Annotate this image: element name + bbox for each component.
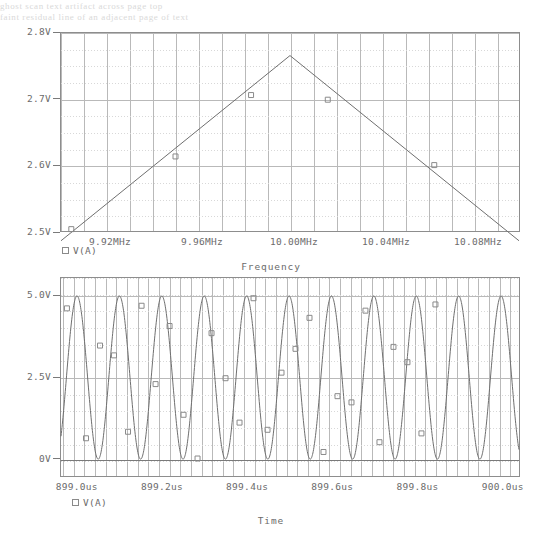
y-tick-label: 2.7V [0, 93, 60, 104]
data-point-marker[interactable] [249, 93, 254, 98]
data-point-marker[interactable] [153, 382, 158, 387]
x-tick-label: 10.00MHz [264, 236, 324, 247]
y-tick-mark [53, 458, 60, 459]
x-tick-label: 10.04MHz [356, 236, 416, 247]
legend-frequency[interactable]: V(A) [62, 245, 97, 256]
y-tick-mark [53, 32, 60, 33]
y-tick-mark [53, 98, 60, 99]
data-point-marker[interactable] [335, 394, 340, 399]
y-tick-label: 2.5V [0, 226, 60, 237]
data-point-marker[interactable] [112, 353, 117, 358]
data-point-marker[interactable] [237, 420, 242, 425]
data-point-marker[interactable] [84, 436, 89, 441]
y-tick-label: 0V [0, 453, 60, 464]
y-tick-text: 2.7V [27, 93, 51, 104]
y-tick-mark [53, 232, 60, 233]
data-point-marker[interactable] [419, 431, 424, 436]
data-point-marker[interactable] [363, 308, 368, 313]
data-point-marker[interactable] [98, 343, 103, 348]
y-tick-text: 5.0V [27, 289, 51, 300]
chart-time-domain: 0V2.5V5.0V 899.0us899.2us899.4us899.6us8… [0, 275, 542, 539]
data-point-marker[interactable] [223, 376, 228, 381]
x-tick-label: 899.0us [47, 481, 107, 492]
plot-frame-frequency [60, 32, 520, 232]
x-tick-label: 10.08MHz [448, 236, 508, 247]
y-tick-label: 2.8V [0, 26, 60, 37]
data-point-marker[interactable] [139, 303, 144, 308]
data-point-marker[interactable] [126, 429, 131, 434]
data-point-marker[interactable] [349, 400, 354, 405]
x-tick-label: 899.8us [388, 481, 448, 492]
y-tick-text: 2.6V [27, 159, 51, 170]
y-tick-text: 2.5V [27, 226, 51, 237]
chart-frequency-response: 2.5V2.6V2.7V2.8V 9.92MHz9.96MHz10.00MHz1… [0, 0, 542, 275]
legend-marker-icon [72, 499, 79, 506]
data-point-marker[interactable] [432, 163, 437, 168]
y-tick-label: 5.0V [0, 289, 60, 300]
trace-frequency [61, 33, 519, 232]
x-tick-label: 9.96MHz [172, 236, 232, 247]
legend-marker-icon [62, 247, 69, 254]
x-axis-title-time: Time [0, 515, 542, 526]
x-tick-label: 900.0us [473, 481, 533, 492]
data-point-marker[interactable] [377, 440, 382, 445]
y-tick-mark [53, 295, 60, 296]
legend-label: V(A) [83, 497, 107, 508]
legend-label: V(A) [73, 245, 97, 256]
data-point-marker[interactable] [279, 370, 284, 375]
data-point-marker[interactable] [265, 427, 270, 432]
waveform-trace [61, 56, 519, 241]
data-point-marker[interactable] [64, 306, 69, 311]
legend-time[interactable]: V(A) [72, 497, 107, 508]
data-point-marker[interactable] [195, 456, 200, 461]
x-tick-label: 899.4us [217, 481, 277, 492]
y-tick-text: 2.5V [27, 371, 51, 382]
plot-page: ghost scan text artifact across page top… [0, 0, 542, 539]
data-point-marker[interactable] [181, 412, 186, 417]
trace-time [61, 278, 519, 477]
data-point-marker[interactable] [307, 315, 312, 320]
plot-frame-time [60, 277, 520, 477]
x-tick-label: 899.2us [132, 481, 192, 492]
y-tick-label: 2.5V [0, 371, 60, 382]
data-point-marker[interactable] [321, 449, 326, 454]
y-tick-mark [53, 377, 60, 378]
data-point-marker[interactable] [173, 154, 178, 159]
y-tick-text: 0V [39, 453, 51, 464]
data-point-marker[interactable] [433, 302, 438, 307]
y-tick-mark [53, 165, 60, 166]
y-tick-text: 2.8V [27, 26, 51, 37]
data-point-marker[interactable] [391, 344, 396, 349]
x-tick-label: 899.6us [302, 481, 362, 492]
data-point-marker[interactable] [325, 97, 330, 102]
data-point-marker[interactable] [251, 296, 256, 301]
y-tick-label: 2.6V [0, 159, 60, 170]
x-axis-title-frequency: Frequency [0, 261, 542, 272]
